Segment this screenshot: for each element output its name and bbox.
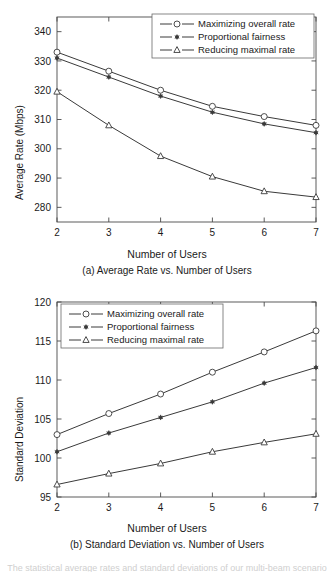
data-point-maximizing-overall-rate-0 [54, 49, 60, 55]
series-proportional-fairness [55, 55, 319, 135]
y-tick-label-310: 310 [34, 114, 51, 125]
series-path-0 [57, 52, 316, 125]
y-tick-label-115: 115 [35, 336, 51, 347]
y-tick-label-300: 300 [34, 143, 51, 154]
data-point-proportional-fairness-0 [55, 55, 60, 60]
x-tick-label-7: 7 [313, 502, 319, 513]
y-tick-label-95: 95 [40, 492, 52, 503]
data-point-maximizing-overall-rate-2 [158, 391, 164, 397]
series-path-2 [57, 92, 316, 197]
x-axis-label-b: Number of Users [0, 522, 334, 534]
clipped-body-text: The statistical average rates and standa… [0, 563, 334, 572]
x-tick-label-6: 6 [261, 227, 267, 238]
data-point-proportional-fairness-5 [314, 130, 319, 135]
data-point-proportional-fairness-1 [107, 430, 112, 435]
series-proportional-fairness [55, 365, 319, 454]
data-point-proportional-fairness-1 [107, 74, 112, 79]
y-tick-label-280: 280 [34, 202, 51, 213]
plot-area-b: 95100105110115120234567Maximizing overal… [0, 286, 334, 526]
y-tick-label-330: 330 [34, 56, 51, 67]
data-point-legend-legend [174, 21, 180, 27]
data-point-maximizing-overall-rate-4 [261, 349, 267, 355]
data-point-proportional-fairness-4 [262, 121, 267, 126]
x-tick-label-5: 5 [210, 227, 216, 238]
series-reducing-maximal-rate [54, 88, 319, 199]
y-axis-label-a: Average Rate (Mbps) [14, 105, 25, 200]
data-point-reducing-maximal-rate-2 [157, 153, 163, 159]
y-tick-label-290: 290 [34, 173, 51, 184]
legend-label-1: Proportional fairness [107, 321, 194, 332]
series-path-2 [57, 434, 316, 485]
y-tick-label-100: 100 [34, 453, 51, 464]
data-point-maximizing-overall-rate-3 [209, 369, 215, 375]
chart-panel-a: 280290300310320330340234567Maximizing ov… [0, 0, 334, 286]
data-point-reducing-maximal-rate-0 [54, 88, 60, 94]
data-point-maximizing-overall-rate-5 [313, 328, 319, 334]
data-point-proportional-fairness-4 [262, 381, 267, 386]
data-point-maximizing-overall-rate-4 [261, 114, 267, 120]
series-path-1 [57, 58, 316, 133]
x-tick-label-2: 2 [54, 227, 60, 238]
data-point-proportional-fairness-3 [210, 110, 215, 115]
caption-a: (a) Average Rate vs. Number of Users [0, 265, 334, 276]
series-maximizing-overall-rate [54, 49, 319, 128]
x-tick-label-3: 3 [106, 227, 112, 238]
y-tick-label-110: 110 [35, 375, 51, 386]
legend-label-0: Maximizing overall rate [107, 308, 204, 319]
data-point-maximizing-overall-rate-2 [158, 87, 164, 93]
plot-area-a: 280290300310320330340234567Maximizing ov… [0, 0, 334, 250]
y-tick-label-120: 120 [34, 297, 51, 308]
legend-label-1: Proportional fairness [198, 31, 285, 42]
x-tick-label-3: 3 [106, 502, 112, 513]
data-point-legend-legend [83, 311, 89, 317]
y-axis-label-b: Standard Deviation [14, 397, 25, 482]
data-point-maximizing-overall-rate-5 [313, 122, 319, 128]
x-tick-label-2: 2 [54, 502, 60, 513]
legend-label-2: Reducing maximal rate [198, 44, 295, 55]
x-axis-label-a: Number of Users [0, 248, 334, 260]
series-path-1 [57, 368, 316, 452]
legend-label-2: Reducing maximal rate [107, 334, 204, 345]
y-tick-label-105: 105 [34, 414, 51, 425]
data-point-proportional-fairness-3 [210, 399, 215, 404]
chart-panel-b: 95100105110115120234567Maximizing overal… [0, 286, 334, 572]
data-point-proportional-fairness-0 [55, 449, 60, 454]
figure-container: 280290300310320330340234567Maximizing ov… [0, 0, 334, 572]
caption-b: (b) Standard Deviation vs. Number of Use… [0, 539, 334, 550]
legend-label-0: Maximizing overall rate [198, 18, 295, 29]
x-tick-label-4: 4 [158, 227, 164, 238]
data-point-maximizing-overall-rate-1 [106, 68, 112, 74]
y-tick-label-340: 340 [34, 26, 51, 37]
legend-panel-b: Maximizing overall rateProportional fair… [61, 304, 223, 348]
x-tick-label-5: 5 [210, 502, 216, 513]
data-point-reducing-maximal-rate-5 [313, 430, 319, 436]
data-point-proportional-fairness-2 [158, 415, 163, 420]
data-point-maximizing-overall-rate-0 [54, 432, 60, 438]
data-point-proportional-fairness-2 [158, 93, 163, 98]
x-tick-label-7: 7 [313, 227, 319, 238]
data-point-proportional-fairness-5 [314, 365, 319, 370]
data-point-maximizing-overall-rate-3 [209, 103, 215, 109]
legend-panel-a: Maximizing overall rateProportional fair… [152, 14, 314, 58]
y-tick-label-320: 320 [34, 85, 51, 96]
x-tick-label-6: 6 [261, 502, 267, 513]
x-tick-label-4: 4 [158, 502, 164, 513]
data-point-maximizing-overall-rate-1 [106, 411, 112, 417]
data-point-reducing-maximal-rate-1 [106, 122, 112, 128]
